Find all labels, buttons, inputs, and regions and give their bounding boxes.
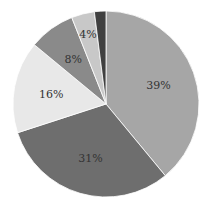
slice-label: 8% — [64, 52, 81, 65]
slice-label: 31% — [78, 151, 102, 164]
pie-chart: 39%31%16%8%4% — [0, 0, 209, 209]
pie-svg — [0, 0, 209, 209]
slice-label: 4% — [79, 27, 96, 40]
slice-label: 39% — [146, 79, 170, 92]
slice-label: 16% — [39, 87, 63, 100]
